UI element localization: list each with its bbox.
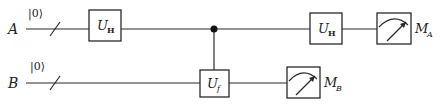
measurement-b: M B <box>287 67 342 98</box>
gate-subscript: H <box>328 28 336 38</box>
quantum-circuit-diagram: A |0⟩ B |0⟩ U H U f U H M <box>0 0 444 104</box>
controlled-uf: U f <box>200 26 229 98</box>
initial-state-a: |0⟩ <box>28 7 43 21</box>
gate-subscript: H <box>107 25 115 35</box>
meter-box <box>287 67 320 98</box>
measurement-a: M A <box>377 13 433 44</box>
qubit-label-a: A <box>6 21 18 37</box>
gate-hadamard-1: U H <box>89 10 121 41</box>
measurement-subscript: B <box>335 84 342 93</box>
qubit-label-b: B <box>7 75 18 91</box>
measurement-subscript: A <box>426 30 433 39</box>
meter-box <box>377 13 411 44</box>
control-dot-icon <box>211 26 218 33</box>
initial-state-b: |0⟩ <box>30 60 45 74</box>
gate-hadamard-2: U H <box>310 13 342 44</box>
qubit-b-row: B |0⟩ <box>7 60 287 91</box>
